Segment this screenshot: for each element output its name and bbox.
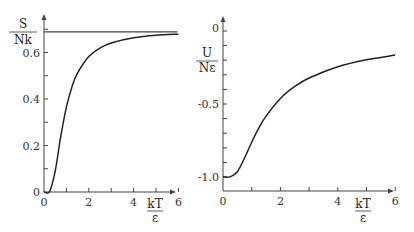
y-tick-label: -0.5 <box>198 98 219 111</box>
energy-chart: 02460-0.5-1.0UNεkTε <box>196 16 399 225</box>
x-tick-label: 4 <box>334 195 341 208</box>
x-tick-label: 2 <box>85 196 92 209</box>
x-tick-label: 0 <box>41 196 48 209</box>
y-axis-label-denominator: Nε <box>199 61 216 75</box>
y-axis-label-numerator: S <box>19 17 27 31</box>
x-tick-label: 4 <box>130 196 137 209</box>
y-tick-label: 0 <box>33 186 40 199</box>
entropy-chart: 024600.20.40.6SNkkTε <box>9 14 182 225</box>
y-axis-arrow-icon <box>42 14 47 20</box>
y-axis-label-denominator: Nk <box>14 33 33 47</box>
y-tick-label: 0 <box>212 22 219 35</box>
x-axis-arrow-icon <box>170 190 176 195</box>
y-tick-label: 0.4 <box>23 93 41 106</box>
data-curve <box>44 34 178 193</box>
x-axis-arrow-icon <box>388 189 394 194</box>
x-axis-label-numerator: kT <box>355 197 370 211</box>
y-axis-label-numerator: U <box>202 46 212 60</box>
x-tick-label: 2 <box>277 195 284 208</box>
x-tick-label: 0 <box>220 195 227 208</box>
x-axis-label-numerator: kT <box>147 197 162 211</box>
chart-canvas: 024600.20.40.6SNkkTε 02460-0.5-1.0UNεkTε <box>0 0 414 232</box>
y-tick-label: 0.6 <box>23 47 41 60</box>
x-tick-label: 6 <box>392 195 399 208</box>
y-tick-label: -1.0 <box>198 171 219 184</box>
y-tick-label: 0.2 <box>23 140 41 153</box>
x-axis-label-denominator: ε <box>152 211 158 225</box>
x-axis-label-denominator: ε <box>360 211 366 225</box>
data-curve <box>223 55 395 177</box>
y-axis-arrow-icon <box>221 16 226 22</box>
x-tick-label: 6 <box>175 196 182 209</box>
